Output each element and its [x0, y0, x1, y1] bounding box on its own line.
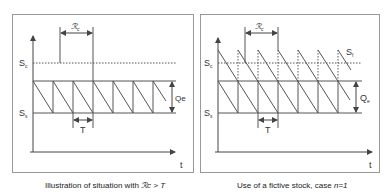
right-caption: Use of a fictive stock, case n=1 — [237, 181, 348, 190]
svg-text:Qe: Qe — [175, 94, 186, 103]
svg-text:T: T — [80, 125, 86, 135]
left-sawtooth — [33, 81, 166, 113]
svg-text:T: T — [265, 125, 271, 135]
right-panel: Sc Ss Sf ℛc T Qe t — [201, 15, 380, 173]
svg-text:t: t — [369, 160, 372, 170]
svg-text:ℛc: ℛc — [71, 22, 80, 32]
right-caption-math: n=1 — [334, 181, 348, 190]
left-caption-math: ℛc > T — [141, 181, 165, 190]
svg-text:Sf: Sf — [346, 47, 354, 58]
left-panel-border — [13, 15, 194, 173]
svg-text:ℛc: ℛc — [255, 22, 264, 32]
right-panel-border — [201, 15, 380, 173]
svg-text:Sc: Sc — [204, 58, 213, 69]
svg-text:t: t — [180, 160, 183, 170]
svg-text:Sc: Sc — [19, 58, 28, 69]
left-caption-text: Illustration of situation with — [45, 181, 141, 190]
diagram-canvas: Sc Ss ℛc T Qe t — [0, 0, 391, 196]
svg-text:Ss: Ss — [204, 108, 213, 119]
left-caption: Illustration of situation with ℛc > T — [45, 181, 165, 190]
left-panel: Sc Ss ℛc T Qe t — [13, 15, 194, 173]
svg-text:Ss: Ss — [19, 108, 28, 119]
right-caption-text: Use of a fictive stock, case — [237, 181, 334, 190]
svg-text:Qe: Qe — [360, 93, 370, 104]
